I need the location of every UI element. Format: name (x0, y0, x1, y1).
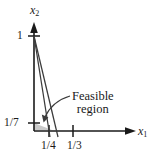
feasible-region-annotation: Feasibleregion (72, 90, 114, 116)
y-tick-label-one-seventh: 1/7 (4, 116, 19, 128)
feasible-region-diagram: x2 x1 1 1/7 1/4 1/3 Feasibleregion (0, 0, 155, 163)
constraint-line-1 (34, 36, 58, 137)
annotation-line-1: Feasible (72, 89, 114, 103)
x-tick-label-one-third: 1/3 (67, 139, 82, 151)
x-axis-label-subscript: 1 (143, 130, 147, 139)
y-axis-label-subscript: 2 (35, 9, 39, 18)
x-tick-label-one-quarter: 1/4 (41, 139, 56, 151)
x-axis-arrow-icon (125, 127, 136, 135)
constraint-line-2 (34, 36, 50, 137)
y-axis-arrow-icon (30, 22, 38, 33)
y-tick-label-1: 1 (17, 29, 23, 41)
y-axis-label: x2 (30, 4, 39, 18)
x-axis-label: x1 (138, 125, 147, 139)
annotation-line-2: region (72, 103, 114, 116)
